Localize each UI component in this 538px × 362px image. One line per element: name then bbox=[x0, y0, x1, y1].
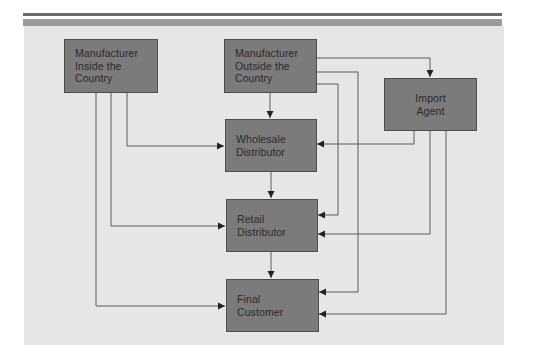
node-label: Retail Distributor bbox=[237, 213, 286, 238]
node-label: Final Customer bbox=[237, 293, 283, 318]
node-label: Import Agent bbox=[385, 92, 476, 117]
node-final-customer: Final Customer bbox=[226, 279, 319, 332]
edge-outside-import bbox=[316, 58, 430, 77]
node-manufacturer-outside: Manufacturer Outside the Country bbox=[224, 39, 317, 93]
node-wholesale-distributor: Wholesale Distributor bbox=[225, 119, 317, 172]
node-retail-distributor: Retail Distributor bbox=[226, 199, 318, 252]
node-label: Wholesale Distributor bbox=[236, 133, 286, 158]
node-import-agent: Import Agent bbox=[384, 78, 477, 131]
node-manufacturer-inside: Manufacturer Inside the Country bbox=[64, 39, 158, 93]
edge-outside-retail bbox=[316, 84, 338, 215]
edge-inside-retail bbox=[111, 92, 225, 226]
edge-import-wholesale bbox=[317, 130, 414, 144]
edge-inside-final bbox=[96, 92, 225, 306]
node-label: Manufacturer Outside the Country bbox=[235, 47, 298, 85]
edge-outside-final bbox=[316, 72, 358, 292]
edge-import-retail bbox=[318, 130, 430, 234]
node-label: Manufacturer Inside the Country bbox=[75, 47, 138, 85]
edge-inside-wholesale bbox=[127, 92, 224, 146]
